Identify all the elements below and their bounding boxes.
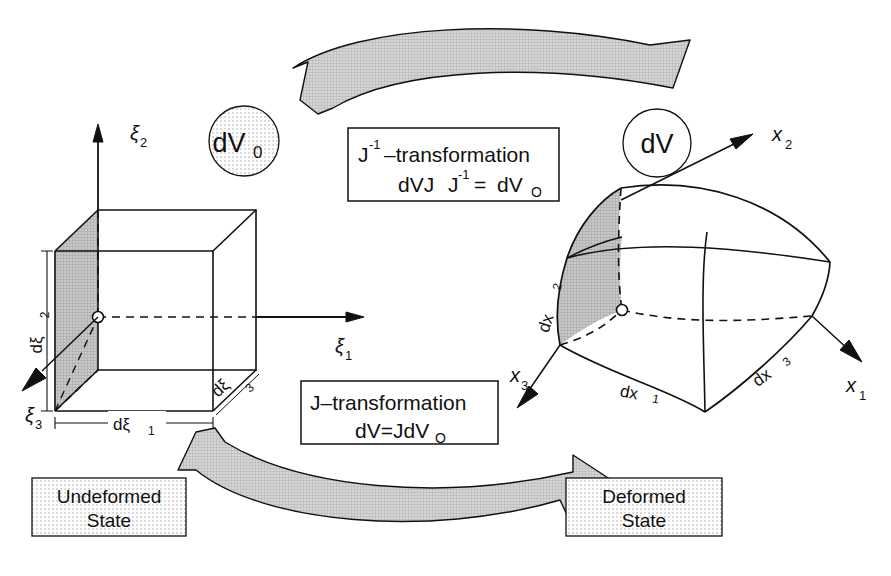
j-forward-eq-a: dV=JdV: [355, 419, 429, 442]
axis-xi3-subscript: 3: [35, 417, 42, 432]
j-inverse-title-base: J: [358, 143, 369, 166]
j-inverse-transformation-box: J -1 –transformation dVJ J -1 = dV O: [348, 128, 559, 201]
axis-x1-subscript: 1: [859, 388, 866, 403]
j-inverse-eq-equals: =: [474, 173, 486, 196]
axis-x2-subscript: 2: [785, 137, 792, 152]
dimension-dxi2-subscript: 2: [38, 311, 52, 318]
undeformed-state-line1: Undeformed: [57, 486, 162, 507]
j-transformation-box: J–transformation dV=JdV O: [301, 381, 498, 446]
undeformed-state-caption: Undeformed State: [32, 478, 186, 536]
axis-xi2-subscript: 2: [140, 135, 147, 150]
axis-xi2-label: ξ: [130, 122, 140, 144]
j-forward-title: J–transformation: [310, 391, 466, 414]
j-inverse-eq-c: dV: [497, 173, 523, 196]
axis-xi1-subscript: 1: [345, 348, 352, 363]
j-inverse-eq-superscript: -1: [458, 167, 470, 182]
dv0-subscript: 0: [253, 143, 262, 162]
dv0-badge: dV 0: [209, 106, 279, 176]
j-forward-eq-subscript: O: [435, 430, 446, 446]
deformed-state-caption: Deformed State: [566, 478, 722, 536]
dimension-dxi1-label: dξ: [113, 415, 130, 434]
j-inverse-eq-subscript: O: [531, 184, 542, 200]
axis-x2-label: x: [771, 123, 783, 145]
axis-x3-subscript: 3: [521, 378, 528, 393]
deformed-origin-marker: [617, 305, 628, 316]
dv-badge: dV: [623, 109, 691, 177]
deformed-state-line1: Deformed: [602, 486, 685, 507]
axis-xi1-label: ξ: [335, 335, 345, 357]
axis-x3-label: x: [509, 364, 521, 386]
j-inverse-title-rest: –transformation: [384, 143, 530, 166]
figure-canvas: dV 0 dV J -1 –transformation dVJ J -1 = …: [0, 0, 891, 576]
undeformed-state-line2: State: [87, 510, 131, 531]
deformed-state-line2: State: [622, 510, 666, 531]
j-inverse-title-superscript: -1: [369, 137, 381, 152]
axis-x1-label: x: [845, 374, 857, 396]
dv-label: dV: [640, 129, 673, 159]
diagram-svg: dV 0 dV J -1 –transformation dVJ J -1 = …: [0, 0, 891, 576]
j-inverse-eq-a: dVJ: [398, 173, 434, 196]
dv0-label: dV: [212, 128, 245, 158]
dimension-dxi2-label: dξ: [27, 336, 46, 353]
j-inverse-eq-j: J: [448, 173, 459, 196]
axis-xi3-label: ξ: [25, 404, 35, 426]
dimension-dxi1-subscript: 1: [148, 424, 155, 438]
